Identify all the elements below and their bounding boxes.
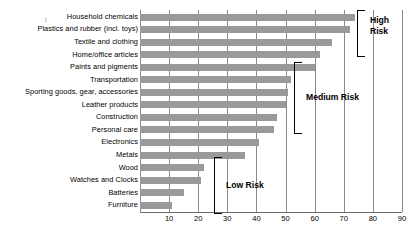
tick-label-30: 30 [217, 214, 237, 223]
bar [140, 101, 286, 108]
low-risk-bracket [214, 157, 222, 214]
category-label: Furniture [108, 201, 138, 209]
high-risk-label: High Risk [370, 15, 389, 36]
category-label: Batteries [108, 189, 138, 197]
tick-label-70: 70 [334, 214, 354, 223]
tick-label-10: 10 [159, 214, 179, 223]
medium-risk-label: Medium Risk [306, 92, 359, 103]
bar [140, 76, 291, 83]
tick-label-60: 60 [305, 214, 325, 223]
category-label: Transportation [90, 76, 138, 84]
category-label: Leather products [82, 101, 138, 109]
category-label: Personal care [92, 126, 138, 134]
category-label: Electronics [101, 138, 138, 146]
bar [140, 14, 355, 21]
medium-risk-bracket [294, 62, 302, 134]
category-label: Textile and clothing [74, 38, 138, 46]
bar [140, 152, 245, 159]
low-risk-label: Low Risk [226, 180, 264, 191]
gridline-90 [402, 10, 403, 212]
category-label: Household chemicals [67, 13, 138, 21]
bar [140, 26, 350, 33]
gridline-80 [373, 10, 374, 212]
bar [140, 51, 320, 58]
bar [140, 202, 172, 209]
tick-label-50: 50 [276, 214, 296, 223]
category-label: Paints and pigments [70, 63, 138, 71]
tick-label-80: 80 [363, 214, 383, 223]
tick-label-40: 40 [246, 214, 266, 223]
category-label: Wood [119, 164, 138, 172]
bar [140, 177, 201, 184]
bar [140, 114, 277, 121]
category-label: Construction [96, 113, 138, 121]
category-label: Watches and Clocks [70, 176, 138, 184]
category-label: Plastics and rubber (incl. toys) [37, 25, 138, 33]
bar [140, 64, 315, 71]
high-risk-bracket [357, 10, 365, 57]
tick-label-20: 20 [188, 214, 208, 223]
category-label: Metals [116, 151, 138, 159]
bar [140, 164, 204, 171]
bar [140, 139, 259, 146]
bar [140, 126, 274, 133]
category-label: Home/office articles [72, 51, 138, 59]
category-label: Sporting goods, gear, accessories [25, 88, 138, 96]
bar [140, 39, 332, 46]
bar-chart: / Household chemicalsPlastics and rubber… [0, 0, 410, 239]
gridline-70 [344, 10, 345, 212]
scan-artifact-mark: / [44, 17, 50, 22]
x-axis-line [140, 212, 402, 213]
bar [140, 189, 184, 196]
bar [140, 89, 288, 96]
tick-label-90: 90 [392, 214, 410, 223]
